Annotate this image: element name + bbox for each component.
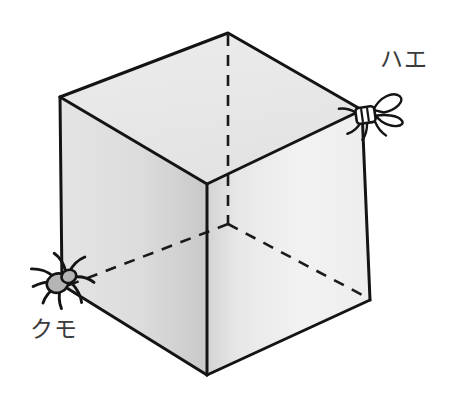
cube-faces <box>60 33 370 375</box>
fly-wing-lower <box>375 112 403 129</box>
fly-label: ハエ <box>380 48 427 71</box>
fly-thorax <box>355 106 376 124</box>
fly-wing-upper <box>372 93 403 114</box>
spider-label: クモ <box>30 318 77 341</box>
edge-vertical-left <box>60 97 62 285</box>
figure-canvas: ハエ クモ <box>0 0 469 399</box>
